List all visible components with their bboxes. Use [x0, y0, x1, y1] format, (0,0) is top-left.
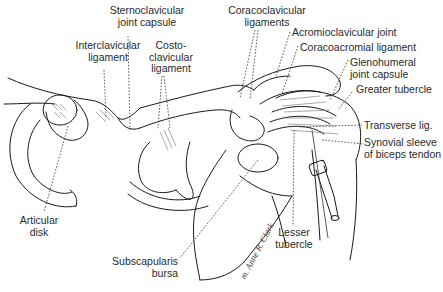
label-sternoclavicular-joint-capsule: Sternoclavicular joint capsule [92, 5, 202, 28]
label-greater-tubercle: Greater tubercle [356, 84, 432, 96]
label-glenohumeral-joint-capsule: Glenohumeral joint capsule [350, 57, 416, 80]
label-articular-disk: Articular disk [14, 215, 64, 238]
label-transverse-lig: Transverse lig. [364, 120, 432, 132]
label-subscapularis-bursa: Subscapularis bursa [100, 256, 178, 279]
label-costoclavicular-ligament: Costo- clavicular ligament [136, 40, 206, 75]
anatomy-diagram: Sternoclavicular joint capsule Interclav… [0, 0, 443, 292]
label-coracoclavicular-ligaments: Coracoclavicular ligaments [222, 5, 312, 28]
label-acromioclavicular-joint: Acromioclavicular joint [292, 27, 396, 39]
label-synovial-sleeve-biceps-tendon: Synovial sleeve of biceps tendon [364, 137, 441, 160]
label-coracoacromial-ligament: Coracoacromial ligament [300, 42, 416, 54]
label-lesser-tubercle: Lesser tubercle [270, 227, 318, 250]
